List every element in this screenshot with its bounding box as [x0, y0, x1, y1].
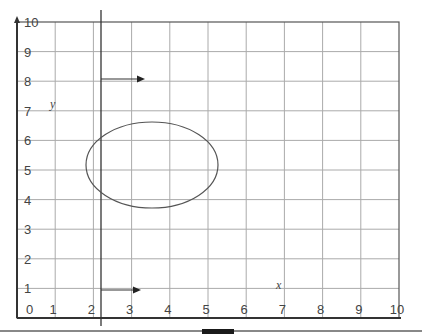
x-tick-label: 3 [126, 302, 133, 317]
arrowhead-right-icon [133, 287, 141, 294]
y-tick-label: 6 [24, 133, 31, 148]
x-tick-label: 0 [26, 302, 33, 317]
y-tick-label: 10 [24, 15, 38, 30]
x-tick-labels: 012345678910 [26, 302, 404, 317]
x-tick-label: 2 [88, 302, 95, 317]
x-tick-label: 5 [202, 302, 209, 317]
y-tick-label: 5 [24, 163, 31, 178]
x-tick-label: 10 [390, 302, 404, 317]
grid-lines [17, 22, 399, 318]
arrow-at-y1 [101, 287, 141, 294]
footer-block [202, 329, 234, 334]
y-tick-label: 8 [24, 74, 31, 89]
y-tick-label: 2 [24, 252, 31, 267]
x-axis-label: x [275, 278, 282, 292]
y-tick-label: 1 [24, 281, 31, 296]
x-tick-label: 7 [279, 302, 286, 317]
y-tick-label: 3 [24, 222, 31, 237]
x-tick-label: 4 [164, 302, 171, 317]
y-tick-label: 7 [24, 104, 31, 119]
ellipse-shape [86, 122, 218, 208]
coordinate-grid-diagram: 012345678910 12345678910 y x [0, 0, 422, 334]
x-tick-label: 1 [50, 302, 57, 317]
y-axis-label: y [49, 97, 56, 111]
x-tick-label: 8 [317, 302, 324, 317]
x-tick-label: 6 [241, 302, 248, 317]
x-tick-label: 9 [355, 302, 362, 317]
y-tick-labels: 12345678910 [24, 15, 38, 296]
y-axis-arrowhead-icon [14, 16, 20, 23]
y-tick-label: 9 [24, 45, 31, 60]
y-tick-label: 4 [24, 193, 31, 208]
